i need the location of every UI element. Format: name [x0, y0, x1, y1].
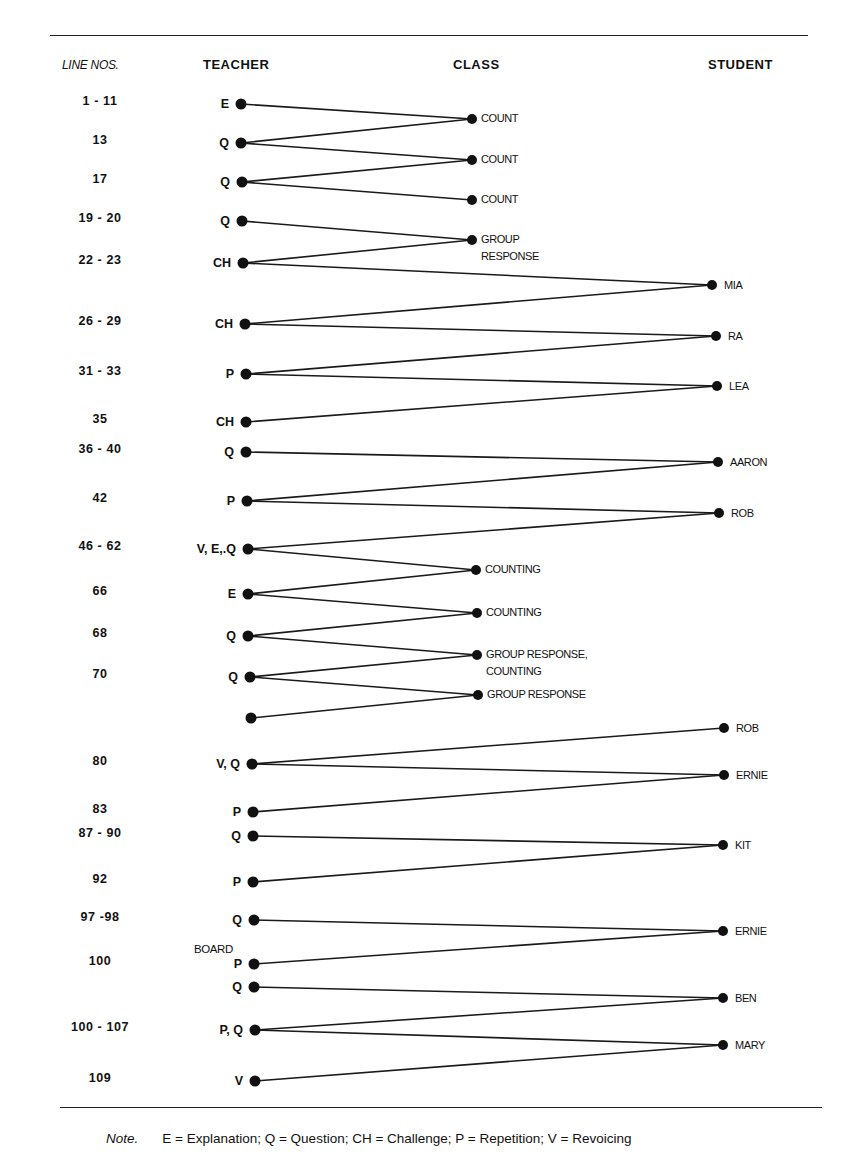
teacher-node-t19	[248, 877, 259, 888]
edge-t6-s1	[245, 285, 712, 324]
teacher-move-code: Q	[158, 670, 238, 684]
student-node-s11	[718, 1040, 728, 1050]
edge-t15-c8	[251, 695, 478, 718]
line-number: 13	[60, 133, 140, 147]
student-name-label: LEA	[729, 378, 749, 395]
edge-t3-c3	[242, 182, 472, 200]
line-number: 97 -98	[60, 910, 140, 924]
note-lead: Note.	[106, 1131, 138, 1146]
edge-t2-c1	[241, 119, 472, 143]
teacher-move-code: P	[161, 875, 241, 889]
teacher-extra-label: BOARD	[194, 941, 233, 958]
teacher-node-t5	[238, 258, 249, 269]
teacher-node-t23	[250, 1025, 261, 1036]
teacher-node-t9	[241, 447, 252, 458]
teacher-move-code: Q	[156, 629, 236, 643]
student-name-label: ERNIE	[735, 923, 767, 940]
student-node-s5	[714, 508, 724, 518]
student-name-label: MIA	[724, 277, 742, 294]
student-node-s6	[719, 723, 729, 733]
note-text: E = Explanation; Q = Question; CH = Chal…	[162, 1131, 631, 1146]
class-response-label: GROUP RESPONSE,COUNTING	[486, 646, 587, 680]
edge-t9-s4	[246, 452, 718, 462]
student-name-label: ROB	[731, 505, 754, 522]
teacher-node-t7	[241, 369, 252, 380]
teacher-node-t2	[236, 138, 247, 149]
edge-t19-s8	[253, 845, 723, 882]
teacher-node-t4	[237, 216, 248, 227]
class-node-c5	[471, 565, 481, 575]
teacher-move-code: P	[162, 957, 242, 971]
class-response-label: COUNT	[481, 110, 518, 127]
edge-t10-s5	[247, 501, 719, 513]
line-number: 17	[60, 172, 140, 186]
teacher-node-t10	[242, 496, 253, 507]
teacher-node-t6	[240, 319, 251, 330]
teacher-move-code: Q	[162, 913, 242, 927]
line-number: 70	[60, 667, 140, 681]
edge-t17-s7	[253, 775, 724, 812]
line-number: 22 - 23	[60, 253, 140, 267]
edge-t23-s11	[255, 1030, 723, 1045]
student-node-s8	[718, 840, 728, 850]
edge-t13-c7	[248, 636, 477, 655]
student-node-s9	[718, 926, 728, 936]
line-number: 68	[60, 626, 140, 640]
teacher-move-code: P	[155, 494, 235, 508]
class-node-c3	[467, 195, 477, 205]
class-label-line: GROUP RESPONSE	[487, 686, 586, 703]
teacher-node-t14	[245, 672, 256, 683]
class-response-label: GROUP RESPONSE	[487, 686, 586, 703]
class-response-label: COUNTING	[485, 561, 540, 578]
edge-t14-c7	[250, 655, 477, 677]
class-node-c4	[467, 235, 477, 245]
class-label-line: RESPONSE	[481, 248, 539, 265]
class-node-c8	[473, 690, 483, 700]
edge-t14-c8	[250, 677, 478, 695]
class-label-line: COUNTING	[486, 663, 587, 680]
line-number: 80	[60, 754, 140, 768]
teacher-node-t11	[243, 544, 254, 555]
teacher-node-t21	[249, 959, 260, 970]
line-number: 35	[60, 412, 140, 426]
edge-t24-s11	[255, 1045, 723, 1081]
edge-t11-c5	[248, 549, 476, 570]
edge-t5-c4	[243, 240, 472, 263]
teacher-move-code: V	[163, 1074, 243, 1088]
line-number: 100	[60, 954, 140, 968]
class-response-label: COUNT	[481, 151, 518, 168]
line-number: 100 - 107	[60, 1020, 140, 1034]
student-name-label: MARY	[735, 1037, 765, 1054]
line-number: 19 - 20	[60, 211, 140, 225]
class-label-line: GROUP RESPONSE,	[486, 646, 587, 663]
teacher-move-code: E	[156, 587, 236, 601]
edge-t7-s2	[246, 336, 716, 374]
line-number: 26 - 29	[60, 314, 140, 328]
edge-t1-c1	[241, 104, 472, 119]
teacher-node-t22	[249, 982, 260, 993]
teacher-node-t16	[247, 759, 258, 770]
class-node-c2	[467, 155, 477, 165]
teacher-move-code: Q	[161, 829, 241, 843]
class-node-c6	[472, 608, 482, 618]
edge-t16-s7	[252, 764, 724, 775]
edge-t16-s6	[252, 728, 724, 764]
student-node-s7	[719, 770, 729, 780]
class-label-line: COUNT	[481, 110, 518, 127]
teacher-move-code: P, Q	[163, 1023, 243, 1037]
edge-t8-s3	[246, 386, 717, 422]
student-node-s4	[713, 457, 723, 467]
teacher-move-code: CH	[151, 256, 231, 270]
teacher-node-t8	[241, 417, 252, 428]
teacher-move-code: Q	[150, 214, 230, 228]
teacher-move-code: CH	[153, 317, 233, 331]
teacher-node-t20	[249, 915, 260, 926]
class-response-label: GROUPRESPONSE	[481, 231, 539, 265]
teacher-node-t1	[236, 99, 247, 110]
class-label-line: COUNTING	[485, 561, 540, 578]
teacher-move-code: V, E,.Q	[156, 542, 236, 556]
edge-t11-s5	[248, 513, 719, 549]
teacher-move-code: P	[161, 805, 241, 819]
teacher-node-t13	[243, 631, 254, 642]
line-number: 109	[60, 1071, 140, 1085]
